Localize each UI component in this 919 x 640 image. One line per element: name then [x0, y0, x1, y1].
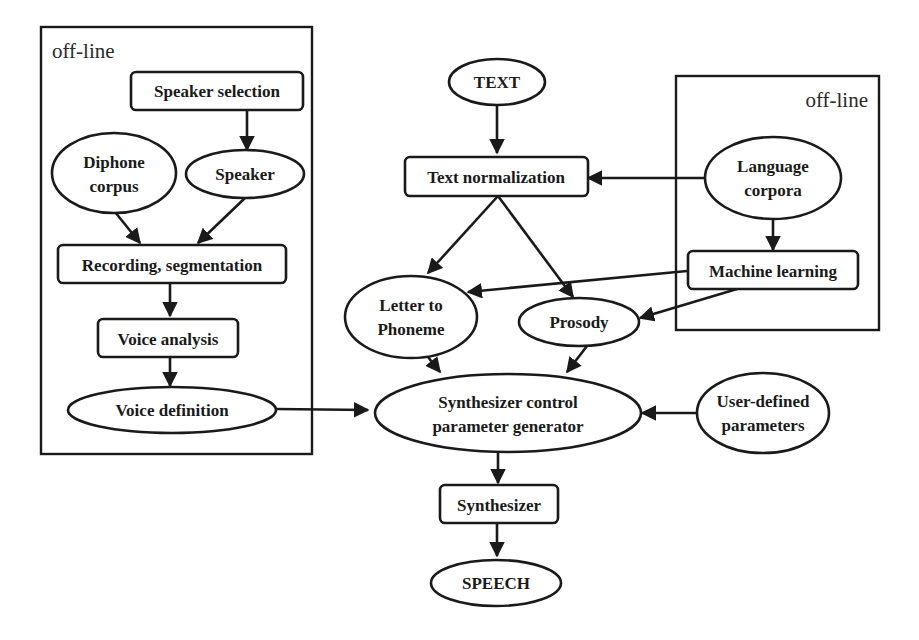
svg-text:SPEECH: SPEECH — [462, 574, 530, 593]
svg-text:Letter to: Letter to — [379, 296, 442, 315]
node-diphone-corpus: Diphone corpus — [52, 133, 176, 213]
svg-text:corpus: corpus — [89, 177, 139, 196]
node-speech: SPEECH — [431, 560, 561, 606]
edge-letter-synthcontrol — [428, 357, 440, 372]
edge-ml-prosody — [640, 289, 737, 318]
edge-speaker-recording — [198, 198, 245, 243]
edge-textnorm-letter — [428, 196, 498, 273]
edge-ml-letter — [468, 271, 687, 292]
svg-text:Synthesizer: Synthesizer — [457, 496, 542, 515]
left-offline-label: off-line — [52, 39, 115, 63]
svg-text:Voice analysis: Voice analysis — [118, 330, 219, 349]
node-synthesizer: Synthesizer — [440, 485, 558, 523]
edge-prosody-synthcontrol — [567, 346, 587, 372]
svg-text:Diphone: Diphone — [83, 153, 145, 172]
svg-text:Speaker selection: Speaker selection — [154, 82, 280, 101]
node-voice-analysis: Voice analysis — [98, 319, 238, 357]
node-synthesizer-control-parameter-generator: Synthesizer control parameter generator — [375, 374, 641, 452]
svg-text:Machine learning: Machine learning — [709, 262, 837, 281]
svg-text:Prosody: Prosody — [549, 313, 609, 332]
svg-text:Recording, segmentation: Recording, segmentation — [82, 256, 263, 275]
edge-diphone-recording — [115, 212, 140, 243]
node-recording-segmentation: Recording, segmentation — [58, 245, 286, 283]
svg-text:User-defined: User-defined — [717, 392, 810, 411]
svg-text:parameter generator: parameter generator — [432, 417, 584, 436]
node-voice-definition: Voice definition — [68, 387, 276, 433]
svg-text:Text normalization: Text normalization — [427, 168, 565, 187]
svg-text:Phoneme: Phoneme — [377, 320, 445, 339]
svg-text:corpora: corpora — [744, 181, 802, 200]
edge-voicedefinition-synthcontrol — [276, 409, 368, 410]
node-text: TEXT — [449, 59, 545, 105]
svg-text:parameters: parameters — [721, 416, 804, 435]
node-text-normalization: Text normalization — [405, 157, 588, 196]
node-user-defined-parameters: User-defined parameters — [697, 373, 829, 453]
svg-text:TEXT: TEXT — [474, 73, 521, 92]
node-prosody: Prosody — [519, 298, 639, 346]
right-offline-label: off-line — [805, 88, 868, 112]
node-machine-learning: Machine learning — [688, 251, 858, 289]
svg-text:Language: Language — [737, 157, 809, 176]
node-speaker: Speaker — [186, 150, 304, 198]
node-speaker-selection: Speaker selection — [131, 72, 303, 110]
svg-text:Voice definition: Voice definition — [115, 401, 229, 420]
node-letter-to-phoneme: Letter to Phoneme — [345, 276, 477, 358]
node-language-corpora: Language corpora — [705, 137, 841, 219]
svg-text:Speaker: Speaker — [215, 165, 275, 184]
svg-text:Synthesizer control: Synthesizer control — [438, 393, 578, 412]
tts-system-diagram: off-line off-line Speaker selection Diph… — [0, 0, 919, 640]
